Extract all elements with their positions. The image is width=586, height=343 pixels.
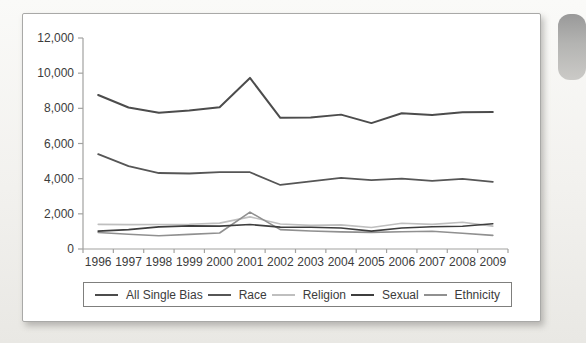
y-tick-label-2000: 2,000 <box>44 207 74 221</box>
x-tick-label-2007: 2007 <box>419 255 446 269</box>
line-chart: 02,0004,0006,0008,00010,00012,0001996199… <box>23 14 540 276</box>
scroll-pill[interactable] <box>558 14 586 80</box>
y-tick-label-12000: 12,000 <box>37 31 74 45</box>
y-tick-label-6000: 6,000 <box>44 137 74 151</box>
legend-item-religion: Religion <box>272 289 346 301</box>
x-tick-label-2006: 2006 <box>388 255 415 269</box>
y-tick-label-4000: 4,000 <box>44 172 74 186</box>
legend-label-sexual: Sexual <box>382 289 419 301</box>
x-tick-label-1999: 1999 <box>176 255 203 269</box>
y-tick-label-0: 0 <box>67 242 74 256</box>
legend-label-all-single-bias: All Single Bias <box>126 289 203 301</box>
x-tick-label-1996: 1996 <box>85 255 112 269</box>
legend-label-religion: Religion <box>303 289 346 301</box>
legend-label-race: Race <box>239 289 267 301</box>
y-tick-label-8000: 8,000 <box>44 101 74 115</box>
x-tick-label-2004: 2004 <box>328 255 355 269</box>
legend-swatch-religion <box>272 294 295 296</box>
series-line-religion <box>98 217 493 228</box>
chart-svg: 02,0004,0006,0008,00010,00012,0001996199… <box>23 14 540 276</box>
legend-item-all-single-bias: All Single Bias <box>95 289 203 301</box>
legend-item-race: Race <box>208 289 267 301</box>
x-tick-label-2003: 2003 <box>297 255 324 269</box>
x-tick-label-1998: 1998 <box>146 255 173 269</box>
legend-swatch-sexual <box>351 294 374 296</box>
x-tick-label-2009: 2009 <box>479 255 506 269</box>
legend: All Single BiasRaceReligionSexualEthnici… <box>83 282 512 307</box>
x-tick-label-2008: 2008 <box>449 255 476 269</box>
legend-label-ethnicity: Ethnicity <box>455 289 500 301</box>
x-tick-label-2001: 2001 <box>237 255 264 269</box>
legend-swatch-all-single-bias <box>95 294 118 296</box>
y-tick-label-10000: 10,000 <box>37 66 74 80</box>
chart-card: 02,0004,0006,0008,00010,00012,0001996199… <box>22 13 541 322</box>
x-tick-label-2005: 2005 <box>358 255 385 269</box>
legend-item-ethnicity: Ethnicity <box>424 289 500 301</box>
legend-item-sexual: Sexual <box>351 289 419 301</box>
x-tick-label-2002: 2002 <box>267 255 294 269</box>
x-tick-label-2000: 2000 <box>206 255 233 269</box>
legend-swatch-race <box>208 294 231 296</box>
series-line-all-single-bias <box>98 78 493 123</box>
series-line-race <box>98 154 493 185</box>
legend-swatch-ethnicity <box>424 294 447 296</box>
x-tick-label-1997: 1997 <box>115 255 142 269</box>
